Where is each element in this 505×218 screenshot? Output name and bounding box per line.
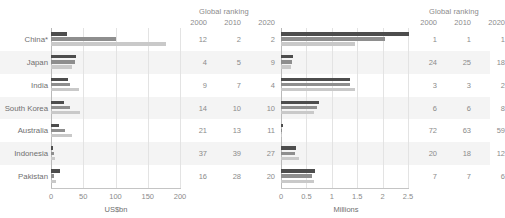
x-tick-label: 100 <box>101 192 131 201</box>
rank-cell: 7 <box>445 172 471 181</box>
rank-cell: 4 <box>181 58 207 67</box>
rank-cell: 37 <box>181 149 207 158</box>
rank-cell: 6 <box>445 104 471 113</box>
rank-cell: 3 <box>445 81 471 90</box>
ranking-year-2000: 2000 <box>181 18 207 27</box>
rank-cell: 16 <box>181 172 207 181</box>
rank-cell: 1 <box>411 35 437 44</box>
rank-cell: 13 <box>215 126 241 135</box>
rank-cell: 12 <box>479 149 505 158</box>
x-tick-label: 2.5 <box>393 192 423 201</box>
ranking-header-right: Global ranking <box>429 7 479 16</box>
rank-cell: 59 <box>479 126 505 135</box>
x-tick-label: 200 <box>165 192 195 201</box>
chart-panel-millions: Global ranking 2000 2010 2020 1112425183… <box>245 0 490 218</box>
x-tick-label: 150 <box>133 192 163 201</box>
rank-cell: 10 <box>215 104 241 113</box>
ranking-table-right: 111242518332668726359201812776 <box>245 28 490 188</box>
rank-cell: 72 <box>411 126 437 135</box>
x-axis-title-right: Millions <box>286 205 406 214</box>
x-axis-line-left <box>51 188 181 189</box>
rank-cell: 18 <box>445 149 471 158</box>
chart-panel-usd: Global ranking 2000 2010 2020 China*Japa… <box>0 0 245 218</box>
rank-cell: 12 <box>181 35 207 44</box>
rank-cell: 18 <box>479 58 505 67</box>
rank-cell: 6 <box>479 172 505 181</box>
rank-cell: 25 <box>445 58 471 67</box>
rank-cell: 39 <box>215 149 241 158</box>
rank-cell: 9 <box>181 81 207 90</box>
rank-cell: 24 <box>411 58 437 67</box>
rank-cell: 1 <box>479 35 505 44</box>
x-axis-title-left: US$bn <box>56 205 176 214</box>
rank-cell: 7 <box>411 172 437 181</box>
rank-cell: 63 <box>445 126 471 135</box>
rank-cell: 1 <box>445 35 471 44</box>
ranking-table-left: 1222459974141010211311373927162820 <box>0 28 245 188</box>
ranking-year-2000: 2000 <box>411 18 437 27</box>
x-tick-label: 50 <box>68 192 98 201</box>
rank-cell: 6 <box>411 104 437 113</box>
rank-cell: 2 <box>215 35 241 44</box>
rank-cell: 7 <box>215 81 241 90</box>
rank-cell: 3 <box>411 81 437 90</box>
ranking-year-2010: 2010 <box>215 18 241 27</box>
x-axis-line-right <box>281 188 409 189</box>
ranking-year-2020: 2020 <box>479 18 505 27</box>
rank-cell: 28 <box>215 172 241 181</box>
rank-cell: 2 <box>479 81 505 90</box>
rank-cell: 20 <box>411 149 437 158</box>
ranking-header-left: Global ranking <box>199 7 249 16</box>
rank-cell: 8 <box>479 104 505 113</box>
rank-cell: 5 <box>215 58 241 67</box>
x-tick-label: 0 <box>36 192 66 201</box>
rank-cell: 21 <box>181 126 207 135</box>
ranking-year-2010: 2010 <box>445 18 471 27</box>
rank-cell: 14 <box>181 104 207 113</box>
